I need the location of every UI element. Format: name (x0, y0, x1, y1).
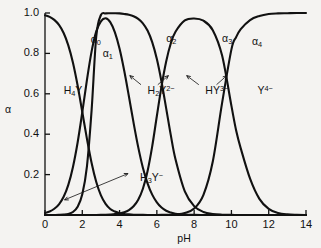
y-tick-label: 0.6 (9, 88, 39, 99)
species-label-Y: Y4− (258, 85, 273, 96)
species-label-HY: HY3− (205, 85, 228, 96)
figure-canvas: 1.0 0.8 0.6 0.4 0.2 α pH 02468101214 α0α… (0, 0, 321, 248)
alpha-label-: α3 (222, 33, 232, 45)
x-axis-label: pH (177, 233, 190, 244)
species-label-HY: H3Y− (140, 172, 163, 184)
x-tick-label: 14 (296, 219, 316, 230)
species-label-HY: H2Y2− (148, 85, 175, 97)
x-tick-label: 2 (72, 219, 92, 230)
y-tick-label: 0.2 (9, 169, 39, 180)
species-label-HY: H4Y (64, 85, 83, 97)
x-tick-label: 10 (221, 219, 241, 230)
y-tick-label: 0.4 (9, 128, 39, 139)
x-tick-label: 6 (147, 219, 167, 230)
x-tick-label: 4 (110, 219, 130, 230)
alpha-label-: α1 (103, 48, 113, 60)
alpha-label-: α2 (166, 33, 176, 45)
y-axis-label: α (5, 104, 11, 115)
x-tick-label: 8 (184, 219, 204, 230)
y-tick-label: 0.8 (9, 47, 39, 58)
arrow-h2y2-left (130, 76, 141, 85)
x-tick-label: 12 (259, 219, 279, 230)
arrow-h3y-long (65, 174, 128, 200)
y-tick-label: 1.0 (9, 7, 39, 18)
alpha-label-: α0 (91, 34, 101, 46)
x-tick-label: 0 (35, 219, 55, 230)
alpha-label-: α4 (252, 36, 262, 48)
arrow-hy3-left (187, 76, 199, 85)
speciation-plot (0, 0, 321, 248)
